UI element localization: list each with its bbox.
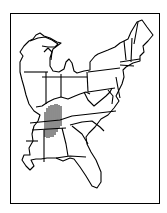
hatch-highlight [45,104,61,138]
state-borders [20,20,153,188]
map-figure [0,0,167,213]
